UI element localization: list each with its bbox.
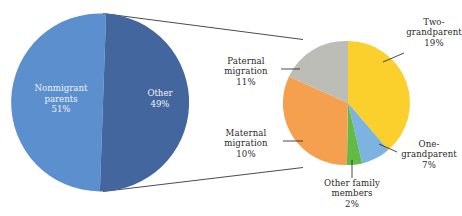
slice-label-nonmigrant-parents: Nonmigrant parents 51% bbox=[18, 83, 104, 115]
one-grandparent-line1: One- bbox=[419, 139, 440, 149]
callout-two-grandparent: Two- grandparent 19% bbox=[406, 17, 462, 48]
callout-paternal-migration: Paternal migration 11% bbox=[211, 56, 281, 87]
maternal-percent: 10% bbox=[211, 149, 281, 159]
paternal-line1: Paternal bbox=[227, 56, 264, 66]
paternal-line2: migration bbox=[224, 66, 267, 76]
breakout-pie bbox=[283, 41, 410, 165]
nonmigrant-label-line2: parents bbox=[44, 94, 77, 104]
maternal-line1: Maternal bbox=[226, 128, 267, 138]
two-grandparent-percent: 19% bbox=[406, 38, 462, 48]
other-family-percent: 2% bbox=[300, 199, 404, 209]
callout-other-family-members: Other family members 2% bbox=[300, 178, 404, 209]
paternal-percent: 11% bbox=[211, 77, 281, 87]
one-grandparent-percent: 7% bbox=[399, 160, 459, 170]
nonmigrant-percent: 51% bbox=[18, 104, 104, 115]
other-family-line1: Other family bbox=[324, 178, 380, 188]
other-family-line2: members bbox=[331, 188, 372, 198]
maternal-line2: migration bbox=[224, 138, 267, 148]
other-label-line1: Other bbox=[147, 88, 172, 98]
two-grandparent-line1: Two- bbox=[423, 17, 444, 27]
other-percent: 49% bbox=[128, 99, 192, 110]
callout-one-grandparent: One- grandparent 7% bbox=[399, 139, 459, 170]
nonmigrant-label-line1: Nonmigrant bbox=[35, 83, 88, 93]
callout-maternal-migration: Maternal migration 10% bbox=[211, 128, 281, 159]
one-grandparent-line2: grandparent bbox=[401, 149, 457, 159]
slice-label-other: Other 49% bbox=[128, 88, 192, 109]
two-grandparent-line2: grandparent bbox=[406, 27, 462, 37]
